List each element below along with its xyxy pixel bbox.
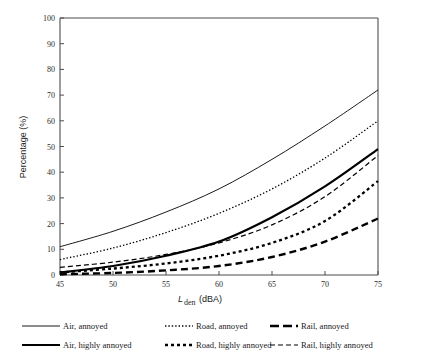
series-curves xyxy=(60,90,378,274)
x-tick-label: 65 xyxy=(268,280,276,289)
legend-label: Rail, annoyed xyxy=(301,321,349,331)
legend-label: Rail, highly annoyed xyxy=(301,340,374,350)
y-tick-label: 0 xyxy=(51,271,55,280)
y-axis-ticks: 0102030405060708090100 xyxy=(43,14,64,280)
x-tick-label: 55 xyxy=(162,280,170,289)
plot-frame xyxy=(60,18,378,275)
exposure-response-chart: 0102030405060708090100 45505560657075 Pe… xyxy=(0,0,437,362)
series-line-road-highly-annoyed xyxy=(60,181,378,272)
y-tick-label: 30 xyxy=(47,194,55,203)
y-tick-label: 70 xyxy=(47,91,55,100)
y-tick-label: 80 xyxy=(47,65,55,74)
y-tick-label: 40 xyxy=(47,168,55,177)
legend-label: Road, annoyed xyxy=(196,321,248,331)
x-tick-label: 70 xyxy=(321,280,329,289)
legend-label: Air, highly annoyed xyxy=(63,340,132,350)
series-line-rail-annoyed xyxy=(60,156,378,268)
x-axis-title-unit: (dBA) xyxy=(199,294,222,304)
y-tick-label: 10 xyxy=(47,245,55,254)
y-tick-label: 50 xyxy=(47,143,55,152)
x-axis-title-subscript: den xyxy=(184,298,196,307)
legend-label: Air, annoyed xyxy=(63,321,108,331)
series-line-road-annoyed xyxy=(60,121,378,260)
x-tick-label: 75 xyxy=(374,280,382,289)
chart-figure: 0102030405060708090100 45505560657075 Pe… xyxy=(0,0,437,362)
x-tick-label: 45 xyxy=(56,280,64,289)
y-tick-label: 100 xyxy=(43,14,55,23)
legend-label: Road, highly annoyed xyxy=(196,340,272,350)
y-axis-title: Percentage (%) xyxy=(18,116,28,179)
x-tick-label: 50 xyxy=(109,280,117,289)
x-axis-title-base: L xyxy=(178,294,183,304)
series-line-air-annoyed xyxy=(60,90,378,247)
x-tick-label: 60 xyxy=(215,280,223,289)
y-tick-label: 90 xyxy=(47,40,55,49)
chart-legend: Air, annoyedRoad, annoyedRail, annoyedAi… xyxy=(22,321,374,350)
x-axis-title: L den (dBA) xyxy=(178,294,222,307)
y-tick-label: 20 xyxy=(47,220,55,229)
y-tick-label: 60 xyxy=(47,117,55,126)
series-line-air-highly-annoyed xyxy=(60,149,378,272)
